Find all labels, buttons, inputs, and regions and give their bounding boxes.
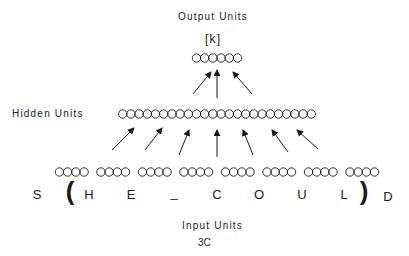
input-unit [279,168,287,176]
input-unit [287,168,295,176]
hidden-unit [233,110,241,118]
input-unit [121,168,129,176]
output-unit [217,54,225,62]
input-unit [155,168,163,176]
input-unit [138,168,146,176]
connection-arrow [243,130,253,155]
input-unit [180,168,188,176]
hidden-unit [192,110,200,118]
hidden-unit [307,110,315,118]
hidden-unit [299,110,307,118]
input-unit [271,168,279,176]
hidden-unit [283,110,291,118]
output-unit [201,54,209,62]
input-unit [80,168,88,176]
connection-arrow [272,130,288,152]
hidden-unit [135,110,143,118]
connection-arrow [297,130,318,149]
input-unit [221,168,229,176]
input-unit [204,168,212,176]
input-unit [263,168,271,176]
output-unit [233,54,241,62]
network-diagram [0,0,409,256]
input-unit [146,168,154,176]
connection-arrow [233,72,252,94]
connection-arrow [145,128,162,150]
output-layer [192,54,241,62]
input-unit [163,168,171,176]
input-unit [346,168,354,176]
input-unit [55,168,63,176]
hidden-unit [266,110,274,118]
hidden-unit [127,110,135,118]
input-unit [63,168,71,176]
connection-arrow [179,130,189,155]
hidden-unit [250,110,258,118]
input-unit [229,168,237,176]
hidden-unit [151,110,159,118]
hidden-unit [168,110,176,118]
hidden-layer [119,110,316,118]
input-unit [321,168,329,176]
hidden-unit [258,110,266,118]
connection-arrow [112,128,134,150]
connection-arrow [193,72,211,94]
output-unit [209,54,217,62]
input-unit [72,168,80,176]
hidden-unit [143,110,151,118]
input-unit [362,168,370,176]
hidden-unit [242,110,250,118]
hidden-unit [225,110,233,118]
input-unit [329,168,337,176]
input-unit [246,168,254,176]
hidden-unit [184,110,192,118]
input-layer [55,168,378,176]
hidden-unit [209,110,217,118]
input-unit [370,168,378,176]
input-unit [105,168,113,176]
input-unit [188,168,196,176]
output-unit [225,54,233,62]
hidden-unit [176,110,184,118]
hidden-unit [274,110,282,118]
input-unit [196,168,204,176]
hidden-unit [201,110,209,118]
hidden-unit [160,110,168,118]
hidden-unit [291,110,299,118]
input-unit [304,168,312,176]
input-unit [97,168,105,176]
hidden-unit [217,110,225,118]
hidden-unit [119,110,127,118]
output-unit [192,54,200,62]
input-unit [354,168,362,176]
input-unit [113,168,121,176]
input-unit [238,168,246,176]
input-unit [312,168,320,176]
